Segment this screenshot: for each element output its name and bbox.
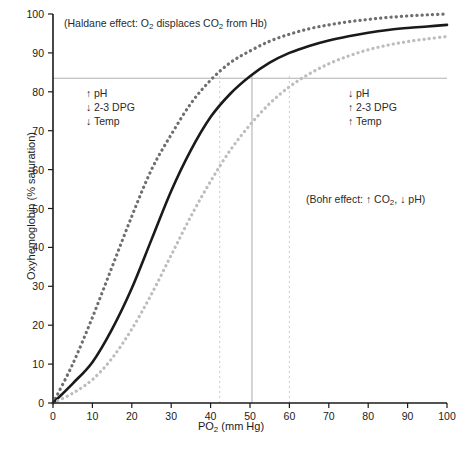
left-factor-dpg: ↓2-3 DPG (86, 100, 135, 114)
bohr-text-open: (Bohr effect: ↑ CO (306, 193, 390, 205)
arrow-up-icon: ↑ (348, 100, 356, 114)
right-factor-temp-label: Temp (356, 115, 382, 127)
left-factor-ph-label: pH (94, 87, 107, 99)
right-factor-temp: ↑Temp (348, 114, 397, 128)
bohr-text-mid: , ↓ pH) (394, 193, 425, 205)
y-tick-label-100: 100 (26, 8, 44, 20)
chart-canvas: 0102030405060708090100010203040506070809… (0, 0, 462, 452)
haldane-text-close: from Hb) (223, 17, 267, 29)
annotation-right-shift-factors: ↓pH ↑2-3 DPG ↑Temp (348, 86, 397, 128)
arrow-down-icon: ↓ (86, 114, 94, 128)
annotation-left-shift-factors: ↑pH ↓2-3 DPG ↓Temp (86, 86, 135, 128)
oxyhemoglobin-dissociation-figure: 0102030405060708090100010203040506070809… (0, 0, 462, 452)
left-factor-temp-label: Temp (94, 115, 120, 127)
arrow-up-icon: ↑ (348, 114, 356, 128)
right-factor-dpg: ↑2-3 DPG (348, 100, 397, 114)
y-tick-label-10: 10 (32, 358, 44, 370)
caption-strip (0, 444, 462, 452)
arrow-down-icon: ↓ (348, 86, 356, 100)
arrow-up-icon: ↑ (86, 86, 94, 100)
left-factor-dpg-label: 2-3 DPG (94, 101, 135, 113)
y-axis-title: Oxyhemoglobin (% saturation) (25, 81, 37, 331)
x-axis-title-main: PO (198, 420, 214, 432)
left-factor-ph: ↑pH (86, 86, 135, 100)
x-axis-title-rest: (mm Hg) (218, 420, 264, 432)
arrow-down-icon: ↓ (86, 100, 94, 114)
right-factor-ph-label: pH (356, 87, 369, 99)
haldane-text-mid: displaces CO (153, 17, 218, 29)
right-factor-ph: ↓pH (348, 86, 397, 100)
annotation-haldane-effect: (Haldane effect: O2 displaces CO2 from H… (64, 16, 267, 34)
y-tick-label-90: 90 (32, 47, 44, 59)
left-factor-temp: ↓Temp (86, 114, 135, 128)
right-factor-dpg-label: 2-3 DPG (356, 101, 397, 113)
y-tick-label-0: 0 (38, 397, 44, 409)
annotation-bohr-effect: (Bohr effect: ↑ CO2, ↓ pH) (306, 192, 425, 210)
curve-1 (53, 25, 447, 403)
haldane-text-open: (Haldane effect: O (64, 17, 149, 29)
x-axis-title: PO2 (mm Hg) (0, 420, 462, 434)
